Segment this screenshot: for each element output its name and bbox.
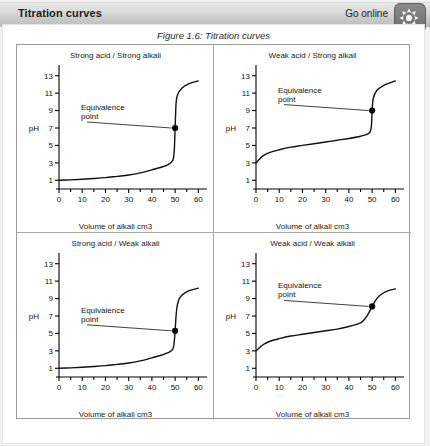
svg-text:9: 9 — [246, 106, 251, 115]
svg-text:point: point — [81, 112, 99, 121]
x-axis-label: Volume of alkali cm3 — [214, 222, 411, 231]
svg-text:10: 10 — [78, 195, 87, 204]
svg-text:11: 11 — [45, 277, 54, 286]
svg-text:5: 5 — [49, 329, 54, 338]
svg-text:60: 60 — [194, 383, 203, 392]
svg-text:pH: pH — [226, 124, 236, 133]
svg-text:point: point — [81, 315, 99, 324]
go-online-label[interactable]: Go online — [345, 8, 388, 19]
svg-text:40: 40 — [344, 383, 353, 392]
chart-weak-acid-weak-alkali: Weak acid / Weak alkali 135791113pH01020… — [214, 233, 411, 420]
svg-text:1: 1 — [246, 364, 251, 373]
svg-text:1: 1 — [49, 364, 54, 373]
chart-strong-acid-weak-alkali: Strong acid / Weak alkali 135791113pH010… — [17, 233, 214, 420]
svg-text:40: 40 — [147, 195, 156, 204]
svg-text:7: 7 — [246, 312, 251, 321]
svg-text:7: 7 — [49, 312, 54, 321]
svg-text:11: 11 — [242, 89, 251, 98]
svg-text:11: 11 — [45, 89, 54, 98]
svg-text:20: 20 — [298, 383, 307, 392]
svg-text:1: 1 — [49, 176, 54, 185]
svg-text:50: 50 — [368, 195, 377, 204]
svg-text:0: 0 — [254, 383, 259, 392]
svg-text:3: 3 — [246, 159, 251, 168]
svg-text:5: 5 — [246, 329, 251, 338]
titration-curve-plot: 135791113pH0102030405060Equivalencepoint — [214, 59, 411, 219]
svg-text:13: 13 — [241, 260, 250, 269]
svg-text:point: point — [278, 95, 296, 104]
svg-text:60: 60 — [391, 383, 400, 392]
titration-curve-plot: 135791113pH0102030405060Equivalencepoint — [17, 247, 214, 407]
titration-curve-plot: 135791113pH0102030405060Equivalencepoint — [214, 247, 411, 407]
app-header: Titration curves Go online — [0, 2, 430, 27]
svg-text:10: 10 — [78, 383, 87, 392]
x-axis-label: Volume of alkali cm3 — [214, 410, 411, 419]
svg-text:point: point — [278, 290, 296, 299]
svg-text:pH: pH — [29, 124, 39, 133]
svg-text:20: 20 — [101, 383, 110, 392]
svg-text:50: 50 — [171, 195, 180, 204]
svg-text:13: 13 — [241, 72, 250, 81]
svg-text:0: 0 — [254, 195, 259, 204]
svg-text:5: 5 — [49, 141, 54, 150]
svg-text:pH: pH — [226, 312, 236, 321]
svg-text:20: 20 — [298, 195, 307, 204]
svg-text:9: 9 — [49, 106, 54, 115]
svg-text:60: 60 — [391, 195, 400, 204]
svg-text:40: 40 — [147, 383, 156, 392]
svg-text:9: 9 — [49, 294, 54, 303]
svg-text:11: 11 — [242, 277, 251, 286]
chart-strong-acid-strong-alkali: Strong acid / Strong alkali 135791113pH0… — [17, 45, 214, 232]
svg-text:50: 50 — [171, 383, 180, 392]
svg-text:7: 7 — [246, 124, 251, 133]
x-axis-label: Volume of alkali cm3 — [17, 222, 214, 231]
chart-weak-acid-strong-alkali: Weak acid / Strong alkali 135791113pH010… — [214, 45, 411, 232]
svg-text:30: 30 — [321, 383, 330, 392]
svg-text:60: 60 — [194, 195, 203, 204]
page-title: Titration curves — [18, 7, 102, 19]
figure-container: Strong acid / Strong alkali 135791113pH0… — [16, 44, 410, 419]
svg-text:30: 30 — [124, 383, 133, 392]
svg-text:30: 30 — [124, 195, 133, 204]
svg-text:10: 10 — [275, 383, 284, 392]
svg-text:0: 0 — [57, 383, 62, 392]
figure-caption: Figure 1.6: Titration curves — [3, 30, 424, 41]
svg-text:Equivalence: Equivalence — [278, 86, 322, 95]
svg-text:3: 3 — [246, 347, 251, 356]
x-axis-label: Volume of alkali cm3 — [17, 410, 214, 419]
svg-text:Equivalence: Equivalence — [278, 281, 322, 290]
svg-text:3: 3 — [49, 347, 54, 356]
svg-text:7: 7 — [49, 124, 54, 133]
svg-text:13: 13 — [44, 72, 53, 81]
svg-text:Equivalence: Equivalence — [81, 103, 125, 112]
titration-curve-plot: 135791113pH0102030405060Equivalencepoint — [17, 59, 214, 219]
app-root: Titration curves Go online — [0, 0, 430, 446]
svg-text:3: 3 — [49, 159, 54, 168]
svg-text:10: 10 — [275, 195, 284, 204]
svg-text:9: 9 — [246, 294, 251, 303]
svg-text:0: 0 — [57, 195, 62, 204]
svg-text:40: 40 — [344, 195, 353, 204]
svg-text:20: 20 — [101, 195, 110, 204]
svg-text:30: 30 — [321, 195, 330, 204]
svg-text:Equivalence: Equivalence — [81, 306, 125, 315]
document-page: Figure 1.6: Titration curves Strong acid… — [3, 25, 424, 443]
svg-text:1: 1 — [246, 176, 251, 185]
svg-text:pH: pH — [29, 312, 39, 321]
svg-text:5: 5 — [246, 141, 251, 150]
svg-text:50: 50 — [368, 383, 377, 392]
svg-text:13: 13 — [44, 260, 53, 269]
